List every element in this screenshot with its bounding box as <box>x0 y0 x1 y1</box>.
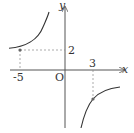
point-neg5-2 <box>18 48 21 51</box>
y-axis-label: y <box>58 0 66 12</box>
tick-label-xneg5: -5 <box>13 71 24 84</box>
curve-branch-lower-right <box>81 87 120 128</box>
origin-label: O <box>55 71 64 84</box>
point-3 <box>91 97 94 100</box>
x-axis-label: x <box>122 63 129 76</box>
curve-branch-upper-left <box>9 12 49 48</box>
function-graph: y x O 2 3 -5 <box>0 0 134 133</box>
tick-label-y2: 2 <box>68 44 75 57</box>
tick-label-x3: 3 <box>89 57 96 70</box>
